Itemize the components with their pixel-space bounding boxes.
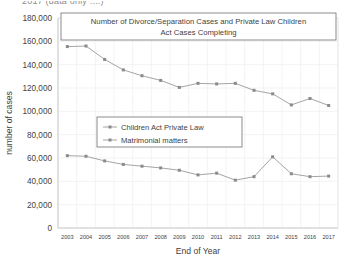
- svg-text:2016: 2016: [304, 234, 316, 240]
- svg-text:2010: 2010: [192, 234, 204, 240]
- svg-text:160,000: 160,000: [22, 37, 52, 46]
- svg-text:120,000: 120,000: [22, 84, 52, 93]
- svg-text:2014: 2014: [266, 234, 278, 240]
- svg-text:2009: 2009: [173, 234, 185, 240]
- svg-text:2005: 2005: [98, 234, 110, 240]
- svg-text:2017: 2017: [322, 234, 334, 240]
- svg-text:2012: 2012: [229, 234, 241, 240]
- svg-text:180,000: 180,000: [22, 14, 52, 23]
- svg-text:2011: 2011: [211, 234, 223, 240]
- svg-text:40,000: 40,000: [27, 177, 52, 186]
- svg-text:2004: 2004: [80, 234, 92, 240]
- svg-text:2013: 2013: [248, 234, 260, 240]
- line-chart: 020,00040,00060,00080,000100,000120,0001…: [0, 0, 343, 264]
- svg-text:80,000: 80,000: [27, 131, 52, 140]
- legend-label-1: Matrimonial matters: [121, 136, 188, 145]
- svg-text:100,000: 100,000: [22, 107, 52, 116]
- svg-text:2006: 2006: [117, 234, 129, 240]
- svg-text:20,000: 20,000: [27, 201, 52, 210]
- svg-text:2003: 2003: [61, 234, 73, 240]
- svg-text:2007: 2007: [136, 234, 148, 240]
- svg-text:60,000: 60,000: [27, 154, 52, 163]
- svg-text:0: 0: [47, 224, 52, 233]
- legend: Children Act Private LawMatrimonial matt…: [97, 117, 242, 147]
- legend-label-0: Children Act Private Law: [121, 123, 204, 132]
- svg-text:140,000: 140,000: [22, 61, 52, 70]
- svg-text:2015: 2015: [285, 234, 297, 240]
- x-axis-label: End of Year: [176, 246, 221, 256]
- data-series-group: [66, 45, 330, 182]
- chart-container: 2017 (data only ....) 020,00040,00060,00…: [0, 0, 343, 264]
- svg-text:2008: 2008: [154, 234, 166, 240]
- chart-title-box: Number of Divorce/Separation Cases and P…: [61, 13, 336, 40]
- x-axis-tick-labels: 2003200420052006200720082009201020112012…: [61, 234, 335, 240]
- y-axis-label: number of cases: [4, 91, 14, 155]
- chart-title-line-2: Act Cases Completing: [160, 28, 236, 37]
- chart-title-line-1: Number of Divorce/Separation Cases and P…: [91, 17, 306, 26]
